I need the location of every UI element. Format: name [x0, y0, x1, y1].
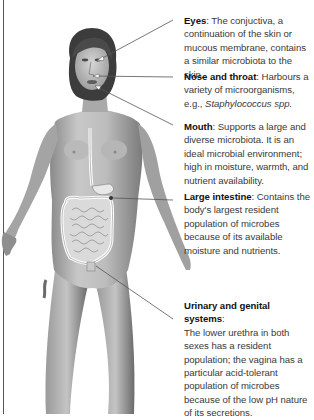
- annotation-title: Mouth: [184, 121, 213, 132]
- left-arm: [4, 124, 58, 244]
- right-arm: [138, 124, 191, 270]
- annotation-title: Nose and throat: [184, 71, 256, 82]
- annotation-urinary-and-genital: Urinary and genital systems:The lower ur…: [184, 299, 312, 420]
- annotation-title: Urinary and genital systems: [184, 300, 270, 324]
- large-intestine: [62, 197, 113, 264]
- annotation-nose-and-throat: Nose and throat: Harbours a variety of m…: [184, 70, 312, 110]
- annotation-italic: Staphylococcus spp.: [205, 98, 292, 109]
- annotation-title: Large intestine: [184, 191, 252, 202]
- legs: [46, 268, 135, 414]
- annotation-large-intestine: Large intestine: Contains the body's lar…: [184, 190, 312, 257]
- annotation-title: Eyes: [184, 15, 206, 26]
- annotation-text: The lower urethra in both sexes has a re…: [184, 327, 307, 418]
- urinary-region: [87, 262, 95, 271]
- annotation-mouth: Mouth: Supports a large and diverse micr…: [184, 120, 312, 187]
